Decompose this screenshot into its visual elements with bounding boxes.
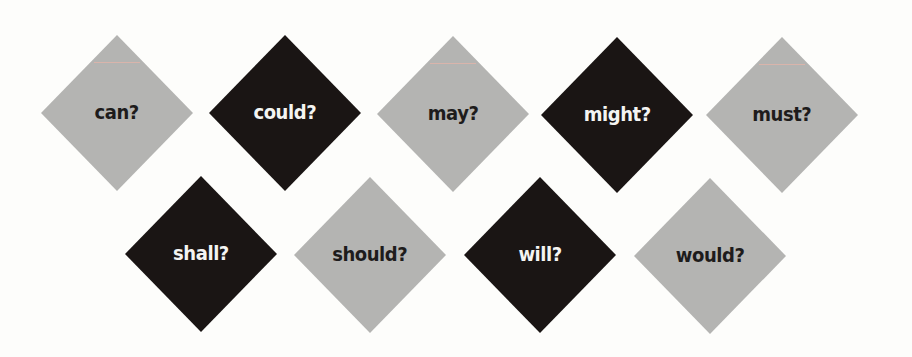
modal-word: could? <box>254 100 317 124</box>
modal-word: might? <box>584 102 651 126</box>
modal-word: shall? <box>173 241 229 265</box>
diamond-must: must? <box>706 37 858 193</box>
diamond-can: can? <box>41 35 193 191</box>
modal-word: will? <box>518 242 561 266</box>
diamond-will: will? <box>464 177 616 333</box>
diamond-could: could? <box>209 35 361 191</box>
diamond-may: may? <box>377 36 529 192</box>
diamond-might: might? <box>541 37 693 193</box>
tint-line <box>759 64 805 65</box>
diamond-would: would? <box>634 178 786 334</box>
tint-line <box>430 63 476 64</box>
modal-word: can? <box>95 100 139 124</box>
modal-word: would? <box>676 243 745 267</box>
modal-word: must? <box>752 102 811 126</box>
modal-word: should? <box>332 242 407 266</box>
tint-line <box>94 62 140 63</box>
diamond-should: should? <box>294 177 446 333</box>
diamond-shall: shall? <box>125 176 277 332</box>
modal-word: may? <box>428 101 479 125</box>
